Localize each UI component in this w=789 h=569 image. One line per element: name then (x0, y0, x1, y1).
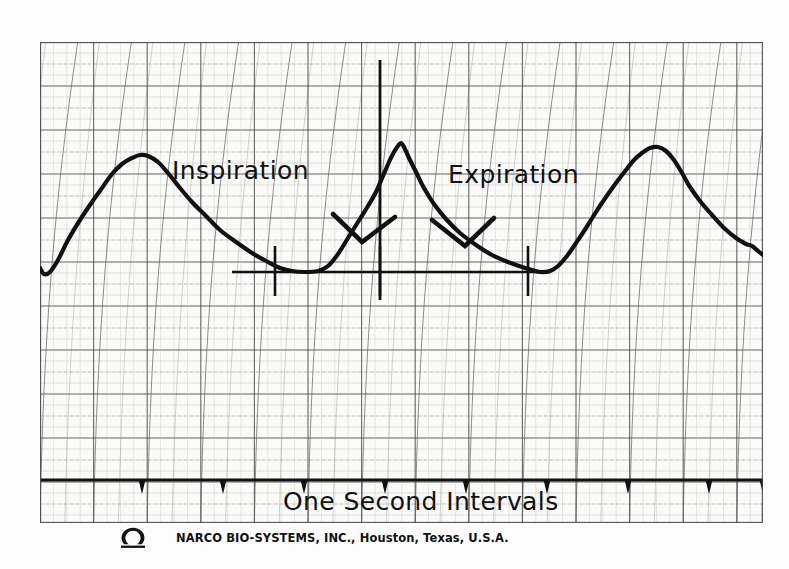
omega-logo-icon (120, 527, 146, 549)
timebase-label: One Second Intervals (283, 487, 559, 516)
expiration-label: Expiration (448, 160, 579, 189)
footer: NARCO BIO-SYSTEMS, INC., Houston, Texas,… (120, 527, 509, 549)
chart-recorder-paper (40, 42, 763, 523)
screenshot-root: Inspiration Expiration One Second Interv… (0, 0, 789, 569)
manufacturer-line: NARCO BIO-SYSTEMS, INC., Houston, Texas,… (176, 531, 509, 545)
inspiration-label: Inspiration (172, 156, 309, 185)
chart-grid (40, 42, 763, 523)
